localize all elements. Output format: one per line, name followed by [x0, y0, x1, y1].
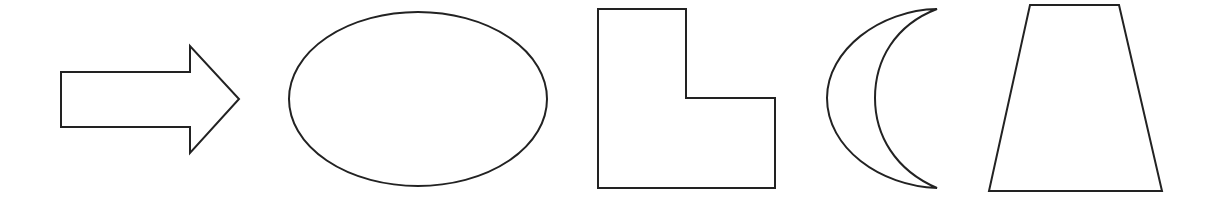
arrow-shape: Arrow: [61, 46, 239, 153]
l-shape: L-shape: [598, 9, 775, 188]
crescent-shape: Crescent: [827, 9, 937, 188]
ellipse-shape: Oval: [289, 12, 547, 186]
shapes-svg: Arrow Oval L-shape Crescent Trapezoid: [0, 0, 1210, 205]
shapes-figure: Arrow Oval L-shape Crescent Trapezoid Ar…: [0, 0, 1210, 205]
trapezoid-shape: Trapezoid: [989, 5, 1162, 191]
